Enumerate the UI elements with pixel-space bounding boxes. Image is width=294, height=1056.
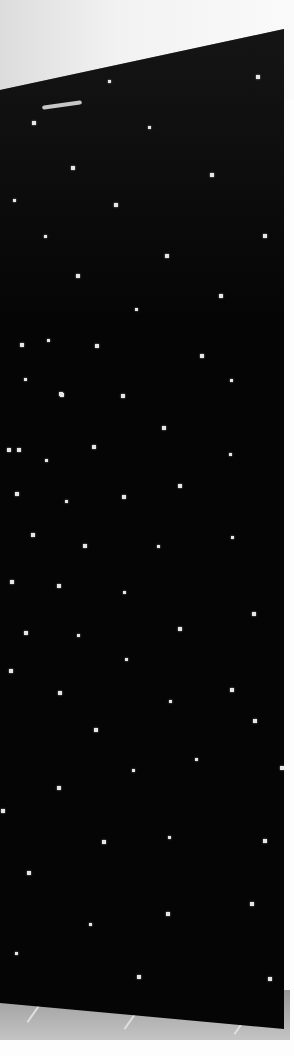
light-dot — [132, 769, 135, 772]
light-dot — [13, 199, 16, 202]
light-dot — [219, 294, 223, 298]
light-dot — [45, 459, 48, 462]
light-dot — [231, 536, 234, 539]
light-dot — [122, 495, 126, 499]
light-dot — [83, 544, 87, 548]
light-dot — [169, 700, 172, 703]
light-dot — [95, 344, 99, 348]
light-dot — [9, 669, 13, 673]
light-dot — [27, 871, 31, 875]
light-dot — [24, 631, 28, 635]
light-dot — [114, 203, 118, 207]
light-dot — [230, 688, 234, 692]
light-dot — [195, 758, 198, 761]
light-dot — [58, 691, 62, 695]
light-dot — [137, 975, 141, 979]
light-dot — [256, 75, 260, 79]
light-dot — [47, 339, 50, 342]
light-dot — [94, 728, 98, 732]
light-dot — [178, 484, 182, 488]
light-dot — [10, 580, 14, 584]
light-dot — [135, 308, 138, 311]
light-dot — [31, 533, 35, 537]
light-dot — [268, 977, 272, 981]
light-dot — [15, 492, 19, 496]
panel-reflection — [0, 0, 284, 1056]
light-dot — [71, 166, 75, 170]
light-dot — [77, 634, 80, 637]
light-dot — [59, 392, 63, 396]
light-dot — [65, 500, 68, 503]
light-dot — [32, 121, 36, 125]
light-dot — [229, 453, 232, 456]
light-dot — [44, 235, 47, 238]
light-dot — [24, 378, 27, 381]
light-dot — [89, 923, 92, 926]
light-dot — [92, 445, 96, 449]
light-dot — [148, 126, 151, 129]
light-dot — [200, 354, 204, 358]
light-dot — [17, 448, 21, 452]
light-dot — [57, 786, 61, 790]
light-dot — [252, 612, 256, 616]
photo-scene — [0, 0, 294, 1056]
light-dot — [123, 591, 126, 594]
light-dot — [20, 343, 24, 347]
light-dot — [165, 254, 169, 258]
light-dot — [76, 274, 80, 278]
light-dot — [121, 394, 125, 398]
light-dot — [178, 627, 182, 631]
light-dot — [1, 809, 5, 813]
light-dot — [263, 234, 267, 238]
light-dot — [210, 173, 214, 177]
light-dot — [162, 426, 166, 430]
light-dot — [168, 836, 171, 839]
light-dot — [250, 902, 254, 906]
light-dot — [230, 379, 233, 382]
light-dot — [7, 448, 11, 452]
light-dot — [253, 719, 257, 723]
light-dot — [108, 80, 111, 83]
light-dot — [166, 912, 170, 916]
light-dot — [125, 658, 128, 661]
light-dot — [102, 840, 106, 844]
light-dot — [57, 584, 61, 588]
light-dot — [157, 545, 160, 548]
light-dot — [15, 952, 18, 955]
light-dot — [280, 766, 284, 770]
light-dot — [263, 839, 267, 843]
